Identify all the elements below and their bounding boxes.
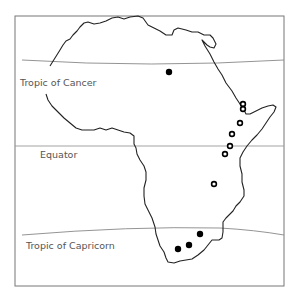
open-marker [238, 121, 243, 126]
open-marker [228, 144, 233, 149]
tropic-of-capricorn-label: Tropic of Capricorn [25, 240, 115, 251]
tropic-of-cancer-label: Tropic of Cancer [19, 77, 97, 88]
filled-marker [175, 246, 181, 252]
filled-marker [166, 69, 172, 75]
open-marker [230, 132, 235, 137]
tropic-of-cancer-line [22, 60, 284, 64]
tropic-of-capricorn-line [22, 228, 284, 235]
filled-marker [197, 231, 203, 237]
open-marker [241, 107, 246, 112]
filled-markers [166, 69, 203, 252]
filled-marker [186, 242, 192, 248]
open-marker [241, 102, 246, 107]
open-marker [212, 182, 217, 187]
equator-label: Equator [40, 149, 77, 160]
open-marker [223, 152, 228, 157]
africa-outline [46, 16, 276, 263]
africa-map: Tropic of Cancer Equator Tropic of Capri… [0, 0, 299, 299]
open-markers [212, 102, 246, 187]
